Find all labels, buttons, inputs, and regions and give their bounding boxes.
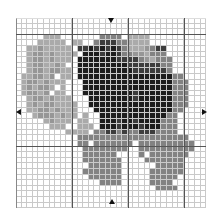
- thick-row-line: [16, 34, 206, 35]
- right-marker-arrow-icon: [202, 109, 207, 115]
- bottom-marker-arrow-icon: [109, 199, 115, 204]
- thick-column-line: [128, 18, 129, 208]
- top-marker-arrow-icon: [108, 18, 114, 23]
- thick-column-line: [184, 18, 185, 208]
- thick-row-line: [16, 146, 206, 147]
- thick-column-line: [72, 18, 73, 208]
- board-frame: [16, 18, 206, 208]
- pixel-puzzle-board[interactable]: [16, 18, 206, 208]
- left-marker-arrow-icon: [16, 109, 21, 115]
